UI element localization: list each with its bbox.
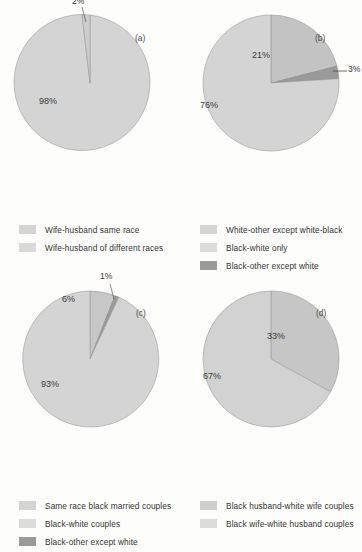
panel-b: 1,161,000 Interracial couples 76% 21% 3%…: [181, 0, 362, 276]
legend-item-label: Black-other except white: [226, 261, 319, 271]
panel-b-legend: White-other except white-black Black-whi…: [200, 222, 342, 276]
legend-swatch-icon: [200, 261, 217, 270]
panel-d-plot: 67% 33%: [181, 276, 362, 491]
panel-b-label-21: 21%: [252, 50, 270, 60]
panel-a-label-2: 2%: [72, 0, 84, 6]
legend-swatch-icon: [19, 243, 36, 252]
panel-b-label-76: 76%: [200, 100, 218, 110]
legend-item: Black-other except white: [200, 258, 342, 273]
panel-d-label-33: 33%: [267, 331, 285, 341]
legend-item: Wife-husband of different races: [19, 240, 163, 255]
panel-a-legend: Wife-husband same race Wife-husband of d…: [19, 222, 163, 258]
legend-item: Black husband-white wife couples: [200, 498, 354, 513]
panel-c-legend: Same race black married couples Black-wh…: [19, 498, 171, 552]
panel-a: 53,512,000 Married couples (all races) 9…: [0, 0, 181, 276]
panel-b-letter: (b): [315, 33, 325, 43]
panel-d-pie-svg: [181, 276, 362, 491]
panel-b-plot: 76% 21% 3%: [181, 0, 362, 215]
legend-item: Black wife-white husband couples: [200, 516, 354, 531]
legend-item: Black-white couples: [19, 516, 171, 531]
panel-a-plot: 98% 2%: [0, 0, 181, 215]
legend-item: Black-white only: [200, 240, 342, 255]
panel-d: 246,000 Black-white married couples 67% …: [181, 276, 362, 552]
legend-item: Same race black married couples: [19, 498, 171, 513]
legend-item-label: Black husband-white wife couples: [226, 501, 354, 511]
legend-item: Black-other except white: [19, 534, 171, 549]
legend-swatch-icon: [19, 225, 36, 234]
panel-a-letter: (a): [135, 33, 145, 43]
legend-swatch-icon: [19, 501, 36, 510]
panel-c: 3,793,000 African-American married coupl…: [0, 276, 181, 552]
panel-c-label-93: 93%: [41, 379, 59, 389]
panel-d-legend: Black husband-white wife couples Black w…: [200, 498, 354, 534]
legend-item-label: Wife-husband same race: [45, 225, 139, 235]
panel-c-letter: (c): [136, 308, 146, 318]
legend-item-label: Black-white only: [226, 243, 288, 253]
panel-d-letter: (d): [316, 308, 326, 318]
legend-swatch-icon: [200, 225, 217, 234]
legend-swatch-icon: [200, 243, 217, 252]
panel-c-pie-svg: [0, 276, 181, 491]
panel-d-label-67: 67%: [203, 371, 221, 381]
panel-b-label-3: 3%: [348, 64, 360, 74]
legend-item-label: Black-other except white: [45, 537, 138, 547]
legend-item: Wife-husband same race: [19, 222, 163, 237]
legend-item-label: Wife-husband of different races: [45, 243, 163, 253]
legend-item-label: Black-white couples: [45, 519, 120, 529]
pie-chart-figure: 53,512,000 Married couples (all races) 9…: [0, 0, 362, 552]
legend-item: White-other except white-black: [200, 222, 342, 237]
panel-c-plot: 93% 6% 1%: [0, 276, 181, 491]
panel-a-pie-svg: [0, 0, 181, 215]
legend-item-label: Same race black married couples: [45, 501, 171, 511]
legend-swatch-icon: [19, 519, 36, 528]
panel-c-label-1: 1%: [100, 271, 112, 281]
panel-c-label-6: 6%: [62, 294, 75, 304]
legend-swatch-icon: [200, 501, 217, 510]
panel-a-slice-98: [14, 15, 150, 151]
legend-swatch-icon: [19, 537, 36, 546]
legend-swatch-icon: [200, 519, 217, 528]
legend-item-label: Black wife-white husband couples: [226, 519, 354, 529]
panel-a-label-98: 98%: [39, 96, 57, 106]
legend-item-label: White-other except white-black: [226, 225, 342, 235]
